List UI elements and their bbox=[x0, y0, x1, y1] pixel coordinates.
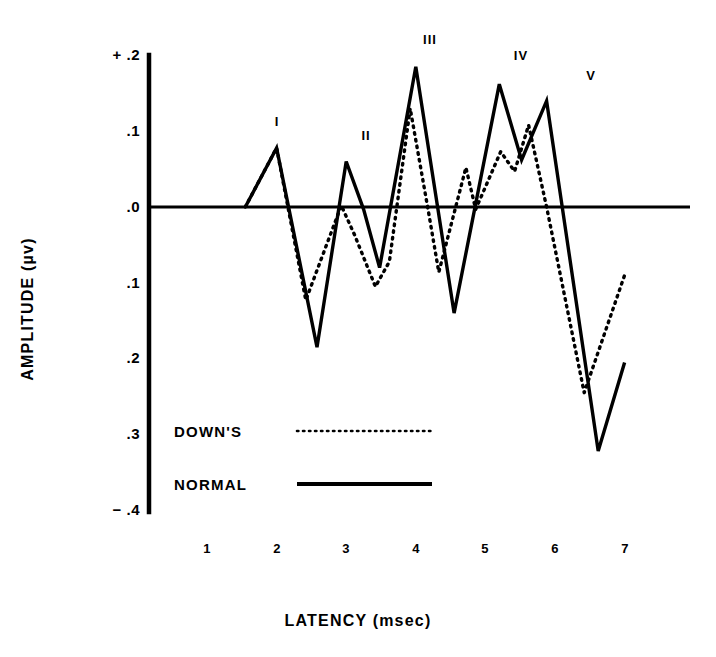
x-tick-label: 7 bbox=[605, 541, 645, 556]
y-tick-label: .0 bbox=[70, 198, 140, 215]
y-axis-title: AMPLITUDE (µv) bbox=[19, 199, 37, 419]
x-axis-title: LATENCY (msec) bbox=[0, 612, 716, 630]
peak-label-iv: IV bbox=[496, 48, 546, 63]
x-tick-label: 4 bbox=[396, 541, 436, 556]
x-tick-label: 3 bbox=[326, 541, 366, 556]
series-line-normal bbox=[245, 67, 624, 451]
peak-label-iii: III bbox=[405, 32, 455, 47]
y-tick-label: − .4 bbox=[60, 501, 140, 518]
x-tick-label: 5 bbox=[465, 541, 505, 556]
x-tick-label: 6 bbox=[535, 541, 575, 556]
chart-plot-area bbox=[0, 0, 716, 657]
chart-figure: + .2 .1 .0 .1 .2 .3 − .4 1 2 3 4 5 6 7 I… bbox=[0, 0, 716, 657]
x-tick-label: 1 bbox=[187, 541, 227, 556]
peak-label-v: V bbox=[566, 68, 616, 83]
y-tick-label: .3 bbox=[70, 425, 140, 442]
y-tick-label: .1 bbox=[70, 274, 140, 291]
peak-label-i: I bbox=[257, 114, 297, 129]
legend-label-downs: DOWN'S bbox=[174, 423, 242, 440]
legend-label-normal: NORMAL bbox=[174, 476, 247, 493]
y-tick-label: + .2 bbox=[70, 46, 140, 63]
y-tick-label: .2 bbox=[70, 349, 140, 366]
peak-label-ii: II bbox=[346, 128, 386, 143]
x-tick-label: 2 bbox=[257, 541, 297, 556]
y-tick-label: .1 bbox=[70, 122, 140, 139]
